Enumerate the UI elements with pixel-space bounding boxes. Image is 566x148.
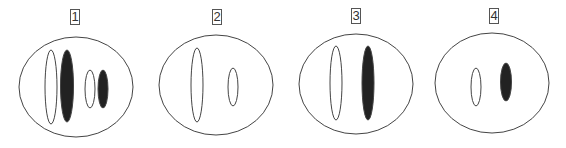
cell-label-1: 1 xyxy=(70,9,80,25)
cell-diagram-figure: 1 2 3 4 xyxy=(0,0,566,148)
hollow-chromosome-ellipse xyxy=(45,50,57,124)
filled-chromosome-ellipse xyxy=(362,46,374,120)
cell-membrane-ellipse xyxy=(159,35,273,135)
cell-membrane-ellipse xyxy=(19,37,133,137)
cell-4 xyxy=(435,33,549,133)
cell-membrane-ellipse xyxy=(435,33,549,133)
hollow-chromosome-ellipse xyxy=(85,70,95,108)
cell-1 xyxy=(19,37,133,137)
cell-2 xyxy=(159,35,273,135)
filled-chromosome-ellipse xyxy=(98,70,108,108)
cell-label-4: 4 xyxy=(489,8,499,24)
cell-membrane-ellipse xyxy=(299,34,413,134)
hollow-chromosome-ellipse xyxy=(330,46,342,120)
hollow-chromosome-ellipse xyxy=(191,48,203,122)
cell-3 xyxy=(299,34,413,134)
filled-chromosome-ellipse xyxy=(61,50,74,122)
hollow-chromosome-ellipse xyxy=(228,68,238,106)
filled-chromosome-ellipse xyxy=(501,63,512,101)
hollow-chromosome-ellipse xyxy=(471,68,481,106)
cell-label-3: 3 xyxy=(351,8,361,24)
cell-label-2: 2 xyxy=(212,9,222,25)
diagram-canvas xyxy=(0,0,566,148)
